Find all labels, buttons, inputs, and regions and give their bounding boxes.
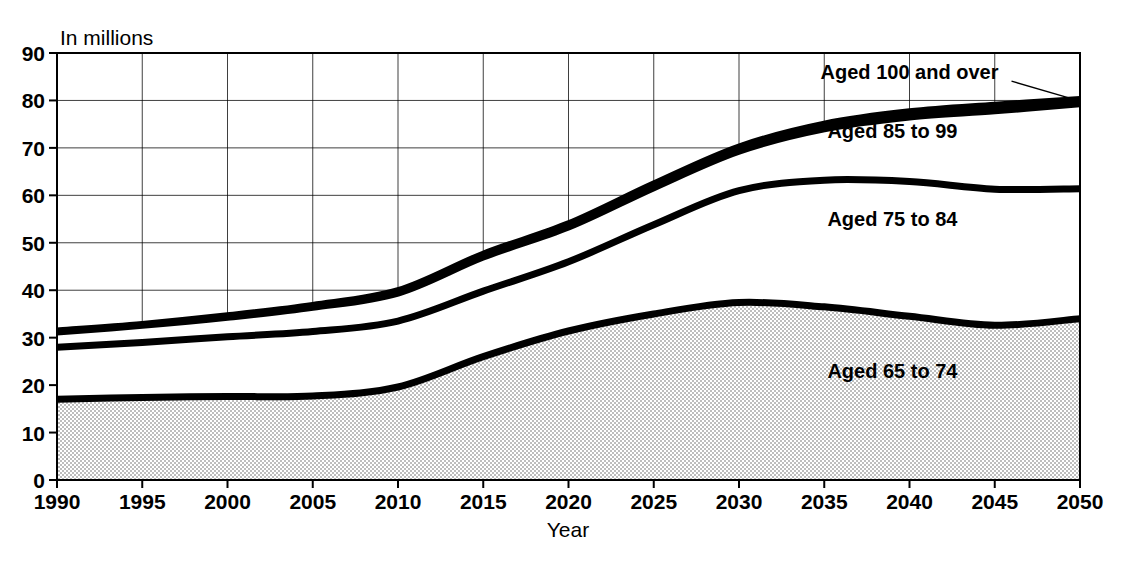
x-tick-label: 2050 xyxy=(1057,490,1104,513)
y-tick-label: 10 xyxy=(22,422,45,445)
y-tick-label: 50 xyxy=(22,232,45,255)
y-tick-label: 20 xyxy=(22,374,45,397)
x-tick-label: 2035 xyxy=(801,490,848,513)
x-tick-label: 1995 xyxy=(119,490,166,513)
x-tick-label: 2010 xyxy=(375,490,422,513)
x-tick-label: 1990 xyxy=(34,490,81,513)
y-tick-label: 90 xyxy=(22,42,45,65)
x-tick-label: 2005 xyxy=(289,490,336,513)
population-projection-area-chart: 0102030405060708090 19901995200020052010… xyxy=(0,0,1126,574)
x-axis-title: Year xyxy=(547,518,589,541)
x-tick-label: 2015 xyxy=(460,490,507,513)
x-tick-label: 2045 xyxy=(971,490,1018,513)
x-tick-label: 2040 xyxy=(886,490,933,513)
x-tick-label: 2030 xyxy=(716,490,763,513)
series-annotation-label: Aged 65 to 74 xyxy=(827,360,958,382)
chart-container: 0102030405060708090 19901995200020052010… xyxy=(0,0,1126,574)
series-annotation-label: Aged 100 and over xyxy=(821,61,999,83)
y-tick-label: 40 xyxy=(22,279,45,302)
x-tick-label: 2000 xyxy=(204,490,251,513)
series-annotation-label: Aged 85 to 99 xyxy=(827,120,957,142)
series-annotation-label: Aged 75 to 84 xyxy=(827,208,958,230)
x-tick-label: 2020 xyxy=(545,490,592,513)
y-tick-label: 30 xyxy=(22,327,45,350)
x-tick-label: 2025 xyxy=(630,490,677,513)
y-tick-label: 0 xyxy=(33,469,45,492)
y-tick-label: 80 xyxy=(22,89,45,112)
y-tick-label: 60 xyxy=(22,184,45,207)
y-tick-label: 70 xyxy=(22,137,45,160)
unit-label: In millions xyxy=(60,26,153,49)
